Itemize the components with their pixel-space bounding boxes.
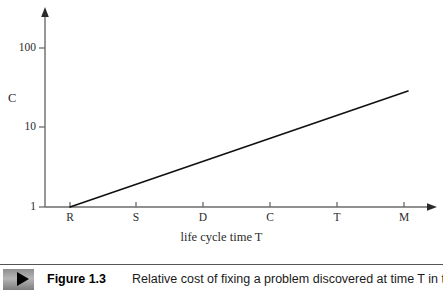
figure-caption-text: Relative cost of fixing a problem discov… [132, 272, 443, 286]
y-tick-label-100: 100 [8, 42, 36, 54]
x-tick-label-r: R [55, 212, 85, 224]
y-tick-label-10: 10 [8, 121, 36, 133]
x-axis-title: life cycle time T [0, 231, 443, 244]
caption-divider [0, 264, 443, 265]
y-axis-arrowhead [41, 7, 49, 17]
cost-curve [70, 91, 408, 207]
figure-1-3: 100 10 1 C R S D C T M life cycle time T… [0, 0, 443, 291]
triangle-glyph [17, 272, 29, 286]
x-tick-label-m: M [389, 212, 419, 224]
y-axis-title: C [8, 92, 16, 105]
y-tick-marks [39, 48, 45, 207]
x-tick-marks [70, 202, 404, 207]
x-tick-label-d: D [188, 212, 218, 224]
x-tick-label-c: C [255, 212, 285, 224]
y-tick-label-1: 1 [8, 201, 36, 213]
x-tick-label-t: T [322, 212, 352, 224]
x-axis-arrowhead [427, 203, 437, 211]
figure-number: Figure 1.3 [47, 272, 106, 286]
right-triangle-icon [3, 269, 34, 290]
figure-caption: Figure 1.3 Relative cost of fixing a pro… [0, 266, 443, 291]
x-tick-label-s: S [121, 212, 151, 224]
